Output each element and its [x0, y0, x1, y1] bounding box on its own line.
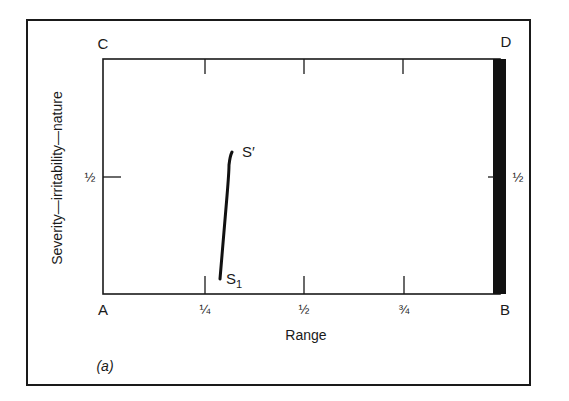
- x-axis-title: Range: [285, 327, 326, 343]
- x-tick-label-quarter: ¼: [200, 302, 211, 317]
- movement-curve: [220, 152, 232, 279]
- y-axis-title: Severity—irritability—nature: [49, 91, 65, 265]
- x-tick-label-half: ½: [299, 302, 310, 317]
- curve-start-subscript: 1: [236, 278, 242, 290]
- corner-label-a: A: [98, 301, 108, 318]
- movement-diagram: S′ S1 C D A B ¼ ½ ¾ ½ ½ Range Severity—i…: [0, 0, 569, 401]
- curve-end-label: S′: [242, 143, 255, 160]
- corner-label-c: C: [98, 35, 109, 52]
- corner-label-b: B: [500, 301, 510, 318]
- curve-start-letter: S: [226, 270, 236, 287]
- corner-label-d: D: [501, 33, 512, 50]
- y-tick-label-half-left: ½: [85, 170, 96, 185]
- y-tick-label-half-right: ½: [513, 170, 524, 185]
- plot-box: [103, 59, 500, 294]
- x-tick-label-three-quarter: ¾: [399, 302, 410, 317]
- panel-label: (a): [96, 358, 113, 374]
- x-axis-top-ticks: [205, 59, 403, 74]
- curve-start-label: S1: [226, 270, 242, 290]
- limit-bar: [493, 59, 506, 294]
